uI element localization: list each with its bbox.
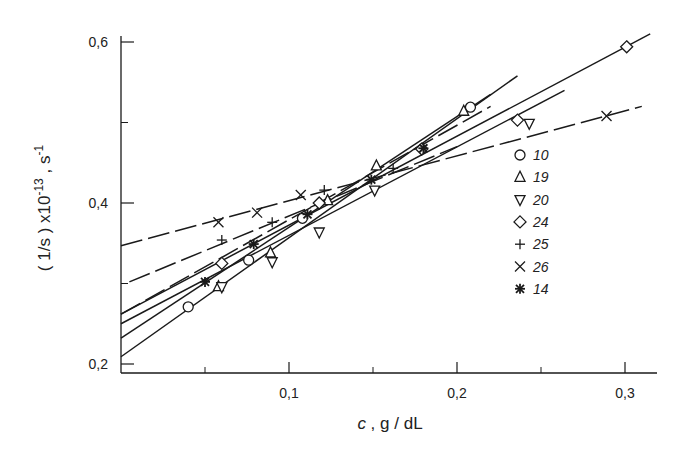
legend-label: 24 [532, 214, 549, 230]
y-axis-title-unit: , s [35, 156, 54, 179]
legend-item-20: 20 [515, 192, 549, 208]
data-point-20 [370, 186, 380, 196]
data-point-14 [418, 143, 428, 153]
legend-item-24: 24 [514, 214, 549, 230]
legend-item-14: 14 [515, 281, 549, 297]
x-axis-title-unit: , g / dL [366, 414, 423, 433]
fit-line-10 [121, 76, 517, 357]
legend-item-26: 26 [515, 259, 549, 275]
legend-item-25: 25 [515, 236, 549, 252]
y-tick-label: 0,4 [89, 195, 109, 211]
data-point-20 [524, 119, 534, 129]
fit-lines [121, 34, 650, 357]
data-point-26 [213, 217, 223, 227]
data-point-26 [296, 190, 306, 200]
legend-item-10: 10 [515, 147, 549, 163]
data-point-19 [371, 160, 381, 170]
data-markers [183, 41, 632, 312]
x-tick-label: 0,2 [447, 385, 467, 401]
data-point-14 [200, 277, 210, 287]
data-point-14 [366, 175, 376, 185]
data-point-10 [183, 302, 193, 312]
data-point-14 [249, 239, 259, 249]
legend-label: 14 [533, 281, 549, 297]
x-tick-label: 0,1 [279, 385, 299, 401]
legend-label: 26 [532, 259, 549, 275]
triangle-up-icon [515, 171, 525, 181]
data-point-24 [621, 41, 633, 53]
legend-label: 20 [532, 192, 549, 208]
axes: 0,10,20,30,20,40,6 [89, 34, 657, 401]
y-axis-title-main: ( 1/s ) x10 [35, 196, 54, 272]
asterisk-icon [515, 284, 525, 294]
data-point-14 [302, 209, 312, 219]
fit-line-25 [129, 147, 457, 282]
plus-icon [515, 239, 525, 249]
fit-line-26 [121, 106, 642, 245]
cross-icon [515, 262, 525, 272]
y-axis-title: ( 1/s ) x10-13 , s-1 [32, 145, 54, 272]
y-axis-title-unit-exp: -1 [32, 145, 46, 156]
x-axis-title: c , g / dL [357, 414, 422, 433]
y-tick-label: 0,2 [89, 356, 109, 372]
legend-label: 19 [533, 169, 549, 185]
data-point-20 [314, 228, 324, 238]
y-tick-label: 0,6 [89, 34, 109, 50]
legend: 10192024252614 [514, 147, 549, 297]
data-point-24 [511, 114, 523, 126]
legend-label: 10 [533, 147, 549, 163]
data-point-25 [217, 235, 227, 245]
data-point-20 [267, 258, 277, 268]
data-point-26 [602, 111, 612, 121]
legend-item-19: 19 [515, 169, 549, 185]
fit-line-24 [121, 34, 650, 314]
y-axis-title-exp: -13 [32, 178, 46, 196]
triangle-down-icon [515, 196, 525, 206]
data-point-10 [244, 255, 254, 265]
diamond-icon [514, 216, 526, 228]
legend-label: 25 [532, 236, 549, 252]
chart: 0,10,20,30,20,40,6 10192024252614 ( 1/s … [0, 0, 679, 456]
fit-line-20 [121, 90, 565, 323]
x-tick-label: 0,3 [615, 385, 635, 401]
fit-line-14 [121, 106, 491, 314]
data-point-25 [267, 217, 277, 227]
circle-icon [515, 150, 525, 160]
